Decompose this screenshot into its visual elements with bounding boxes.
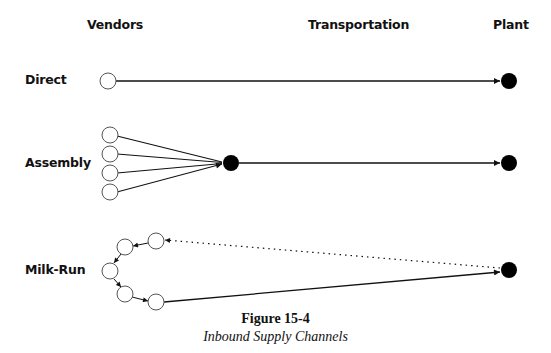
figure-subtitle: Inbound Supply Channels xyxy=(0,329,551,345)
figure-title: Figure 15-4 xyxy=(0,311,551,327)
assembly-channel xyxy=(102,127,517,200)
milk-run-vendor-node xyxy=(102,263,118,279)
assembly-vendor-node xyxy=(102,165,118,181)
milk-run-leg xyxy=(132,297,148,301)
milk-run-vendor-node xyxy=(117,239,133,255)
direct-channel xyxy=(100,73,517,89)
milk-run-return-line xyxy=(165,240,500,268)
assembly-vendor-node xyxy=(102,127,118,143)
milk-run-channel xyxy=(102,233,517,310)
assembly-vendor-node xyxy=(102,146,118,162)
supply-channel-diagram xyxy=(0,0,551,353)
milk-run-vendor-node xyxy=(148,294,164,310)
milk-run-transport-line xyxy=(164,272,500,302)
direct-plant-node xyxy=(501,73,517,89)
milk-run-vendor-node xyxy=(148,233,164,249)
milk-run-leg xyxy=(114,254,121,263)
milk-run-vendor-node xyxy=(117,286,133,302)
assembly-consolidation-node xyxy=(223,155,239,171)
milk-run-plant-node xyxy=(501,262,517,278)
direct-vendor-node xyxy=(100,73,116,89)
assembly-plant-node xyxy=(501,155,517,171)
assembly-vendor-node xyxy=(102,184,118,200)
milk-run-leg xyxy=(114,279,121,287)
milk-run-leg xyxy=(133,243,148,246)
